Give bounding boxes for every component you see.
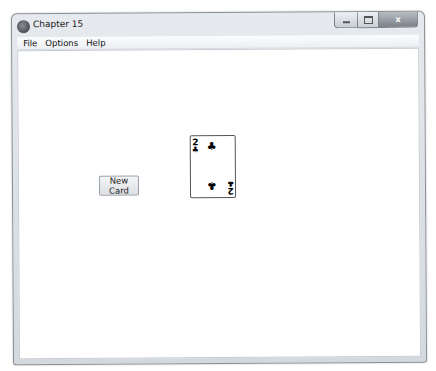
close-button[interactable]: x — [379, 12, 418, 28]
maximize-button[interactable] — [358, 12, 379, 28]
club-icon: ♣ — [207, 141, 217, 152]
menu-file[interactable]: File — [19, 37, 41, 49]
menu-help[interactable]: Help — [82, 37, 109, 49]
new-card-button[interactable]: New Card — [99, 175, 139, 195]
club-icon: ♣ — [207, 180, 217, 191]
card-rank: 2 — [227, 187, 234, 195]
caption-buttons: x — [334, 12, 418, 29]
app-window: Chapter 15 x File Options Help New Card … — [11, 11, 427, 366]
title-bar[interactable]: Chapter 15 x — [12, 12, 424, 37]
menu-options[interactable]: Options — [41, 37, 82, 49]
card-corner-bottom-right: 2 ♣ — [227, 179, 234, 195]
close-icon: x — [395, 15, 400, 24]
window-title: Chapter 15 — [33, 19, 83, 29]
client-area: New Card 2 ♣ ♣ ♣ 2 ♣ — [17, 48, 421, 359]
playing-card[interactable]: 2 ♣ ♣ ♣ 2 ♣ — [190, 135, 236, 198]
minimize-button[interactable] — [334, 12, 358, 28]
maximize-icon — [363, 16, 372, 24]
app-icon[interactable] — [17, 20, 30, 33]
club-icon: ♣ — [227, 179, 234, 187]
card-corner-top-left: 2 ♣ — [192, 138, 199, 154]
club-icon: ♣ — [192, 146, 199, 154]
minimize-icon — [342, 21, 349, 23]
